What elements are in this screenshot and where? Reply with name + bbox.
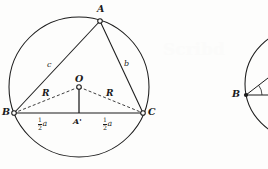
fraction-stack-left: 1 2: [38, 117, 42, 131]
fraction-denominator-left: 2: [38, 124, 42, 132]
segment-ab-side-c: [14, 21, 100, 113]
label-foot-aprime: A': [73, 117, 82, 125]
center-o-marker: [77, 85, 82, 90]
main-figure-group: [9, 17, 149, 157]
label-radius-right: R: [106, 89, 113, 98]
fraction-numerator-left: 1: [38, 117, 42, 124]
label-vertex-a: A: [97, 4, 104, 14]
segment-ac-side-b: [100, 21, 143, 113]
secondary-angle-arc: [259, 85, 262, 95]
label-side-b: b: [124, 60, 129, 68]
fraction-stack-right: 1 2: [103, 117, 107, 131]
vertex-a-marker: [98, 19, 103, 24]
label-vertex-c: C: [148, 107, 156, 117]
secondary-figure-group: [244, 29, 268, 139]
secondary-ray-upper: [246, 78, 268, 95]
label-half-a-left: 1 2 a: [38, 117, 47, 131]
label-radius-left: R: [42, 89, 49, 98]
label-side-c: c: [47, 61, 51, 69]
secondary-vertex-b-marker: [244, 93, 248, 97]
fraction-variable-right: a: [108, 120, 113, 128]
fraction-variable-left: a: [43, 120, 48, 128]
fraction-numerator-right: 1: [103, 117, 107, 124]
label-secondary-vertex-b: B: [232, 89, 240, 99]
geometry-figure-canvas: Scribd: [0, 0, 268, 169]
watermark-text: Scribd: [163, 39, 225, 59]
label-vertex-b: B: [2, 107, 10, 117]
label-half-a-right: 1 2 a: [103, 117, 112, 131]
vertex-b-marker: [12, 111, 17, 116]
secondary-circle: [245, 29, 268, 139]
label-center-o: O: [75, 74, 83, 84]
vertex-c-marker: [141, 111, 146, 116]
fraction-denominator-right: 2: [103, 124, 107, 132]
